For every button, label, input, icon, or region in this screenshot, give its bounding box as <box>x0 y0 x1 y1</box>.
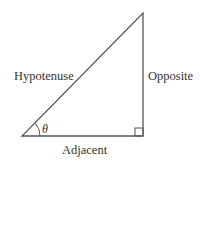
hypotenuse-label: Hypotenuse <box>14 70 74 83</box>
angle-arc <box>36 124 41 137</box>
theta-label: θ <box>42 123 48 135</box>
opposite-label: Opposite <box>148 70 193 83</box>
adjacent-label: Adjacent <box>62 144 107 157</box>
right-angle-marker <box>135 128 143 136</box>
